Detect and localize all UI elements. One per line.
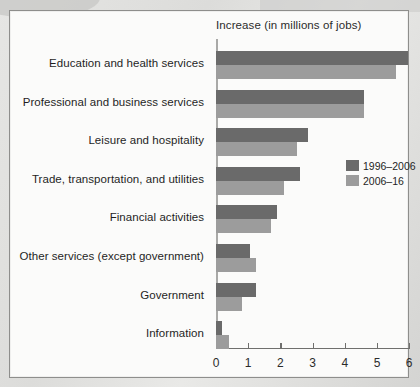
x-axis-tick	[248, 343, 249, 349]
bar-1996-2006	[216, 321, 222, 335]
category-label: Information	[146, 327, 204, 339]
bar-2006-16	[216, 219, 271, 233]
chart-page: Increase (in millions of jobs) 0123456Ed…	[0, 0, 420, 387]
bar-1996-2006	[216, 51, 408, 65]
bar-2006-16	[216, 65, 396, 79]
figure-frame: Increase (in millions of jobs) 0123456Ed…	[9, 10, 409, 378]
bar-1996-2006	[216, 167, 300, 181]
legend-item: 2006–16	[346, 174, 416, 187]
category-label: Other services (except government)	[20, 250, 205, 262]
legend-swatch	[346, 160, 359, 171]
x-axis-tick-label: 2	[277, 356, 284, 370]
legend-item: 1996–2006	[346, 159, 416, 172]
x-axis-tick	[313, 343, 314, 349]
legend-swatch	[346, 175, 359, 186]
chart-title: Increase (in millions of jobs)	[216, 19, 362, 31]
bar-2006-16	[216, 181, 284, 195]
category-label: Education and health services	[49, 57, 204, 69]
x-axis-tick-label: 5	[374, 356, 381, 370]
category-label: Government	[140, 289, 204, 301]
legend-label: 1996–2006	[363, 160, 416, 172]
x-axis-tick	[409, 343, 410, 349]
x-axis-tick-label: 6	[406, 356, 413, 370]
x-axis-tick	[345, 343, 346, 349]
x-axis-tick-label: 4	[341, 356, 348, 370]
x-axis-tick-label: 3	[309, 356, 316, 370]
category-label: Leisure and hospitality	[88, 134, 204, 146]
x-axis-tick-label: 1	[245, 356, 252, 370]
category-label: Professional and business services	[23, 96, 204, 108]
bar-2006-16	[216, 297, 242, 311]
bar-1996-2006	[216, 128, 308, 142]
x-axis-tick	[377, 343, 378, 349]
x-axis-tick	[280, 343, 281, 349]
bar-1996-2006	[216, 205, 277, 219]
bar-2006-16	[216, 142, 297, 156]
figure-inner: Increase (in millions of jobs) 0123456Ed…	[10, 11, 408, 377]
bar-2006-16	[216, 104, 364, 118]
bar-2006-16	[216, 258, 256, 272]
bar-2006-16	[216, 335, 229, 349]
category-label: Trade, transportation, and utilities	[32, 173, 204, 185]
bar-1996-2006	[216, 90, 364, 104]
category-label: Financial activities	[110, 211, 204, 223]
x-axis-tick-label: 0	[213, 356, 220, 370]
bar-1996-2006	[216, 244, 250, 258]
bar-1996-2006	[216, 283, 256, 297]
legend-label: 2006–16	[363, 175, 404, 187]
chart-legend: 1996–20062006–16	[346, 159, 416, 189]
bar-chart-plot-area: 0123456Education and health servicesProf…	[216, 39, 408, 349]
